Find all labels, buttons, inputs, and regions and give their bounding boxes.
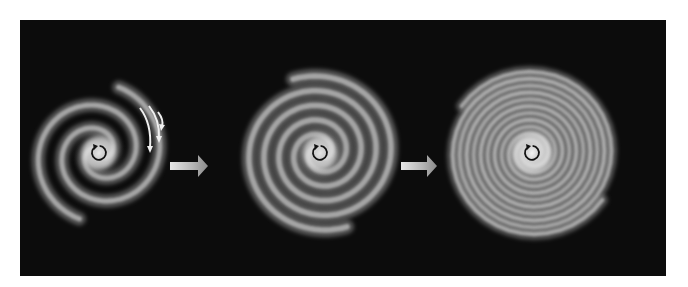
galaxy-stage-2 (249, 76, 391, 230)
galaxy-sequence (20, 20, 666, 276)
transition-arrow-1 (170, 155, 208, 177)
figure-panel (20, 20, 666, 276)
right-arrow-icon (401, 155, 437, 177)
galaxy-nucleus (512, 133, 552, 173)
galaxy-stage-3 (453, 72, 612, 234)
right-arrow-icon (170, 155, 208, 177)
motion-arrow-head-icon (147, 146, 153, 153)
transition-arrow-2 (401, 155, 437, 177)
galaxy-stage-1 (38, 87, 159, 219)
galaxy-nucleus (304, 137, 337, 170)
galaxy-nucleus (83, 137, 116, 170)
